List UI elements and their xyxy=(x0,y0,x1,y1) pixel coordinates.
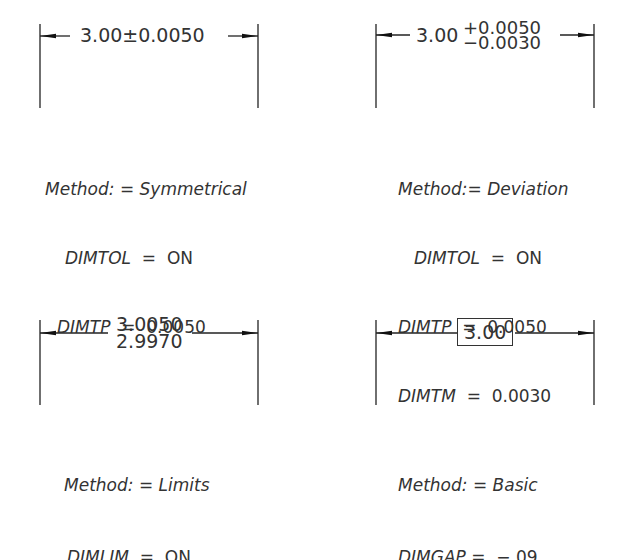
setting-dimtp: DIMTP = 0.0050 xyxy=(57,316,247,338)
deviation-tolerance-stack: +0.0050 −0.0030 xyxy=(463,20,541,50)
setting-dimlim: DIMLIM = ON xyxy=(67,546,210,560)
method-line: Method: = Limits xyxy=(64,474,210,496)
basic-settings: Method: = Basic DIMGAP = −.09 xyxy=(398,430,538,560)
setting-dimgap: DIMGAP = −.09 xyxy=(398,546,538,560)
deviation-settings: Method:= Deviation DIMTOL = ON DIMTP = 0… xyxy=(398,134,568,429)
setting-dimtol: DIMTOL = ON xyxy=(65,247,247,269)
deviation-dimension-base: 3.00 xyxy=(416,25,458,45)
setting-dimtp: DIMTP = 0.0050 xyxy=(398,316,568,338)
limits-settings: Method: = Limits DIMLIM = ON DIMTP = 0.0… xyxy=(64,430,210,560)
method-line: Method:= Deviation xyxy=(398,178,568,200)
setting-dimtm: DIMTM = 0.0030 xyxy=(398,385,568,407)
tolerance-minus: −0.0030 xyxy=(463,35,541,50)
symmetrical-settings: Method: = Symmetrical DIMTOL = ON DIMTP … xyxy=(45,134,247,360)
symmetrical-dimension-text: 3.00±0.0050 xyxy=(80,25,205,45)
method-line: Method: = Basic xyxy=(398,474,538,496)
setting-dimtol: DIMTOL = ON xyxy=(414,247,568,269)
method-line: Method: = Symmetrical xyxy=(45,178,247,200)
